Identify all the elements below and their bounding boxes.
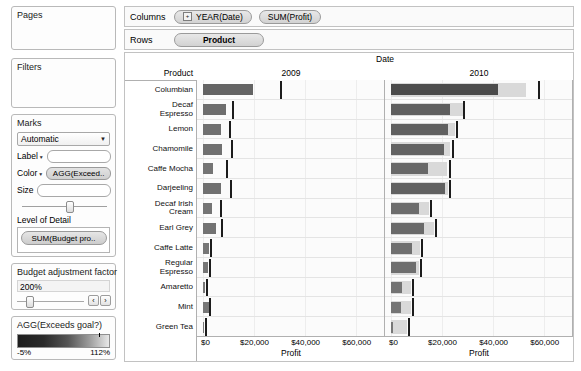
color-legend-labels: -5% 112% [17,348,110,357]
panel-header-2009[interactable]: 2009 [197,66,385,80]
color-legend-max: 112% [90,348,110,357]
profit-bar[interactable] [391,243,412,254]
grid-horizontal [197,257,384,258]
marks-color-row: Color▼ AGG(Exceed.. [17,166,111,180]
marks-label-well[interactable] [47,150,111,163]
marks-size-row: Size [17,183,111,197]
profit-bar[interactable] [203,223,216,234]
grid-horizontal [385,316,572,317]
profit-bar[interactable] [391,124,448,135]
columns-pill-year-date-label: YEAR(Date) [196,12,243,22]
expand-plus-icon[interactable]: + [183,12,192,21]
row-label[interactable]: Chamomile [125,139,197,159]
size-slider-knob[interactable] [66,201,74,213]
axis-tick-label: $0 [201,338,210,347]
grid-horizontal [385,296,572,297]
profit-bar[interactable] [203,183,221,194]
profit-bar[interactable] [203,262,208,273]
axis-2010: $0$20,000$40,000$60,000Profit [385,336,573,361]
parameter-slider-knob[interactable] [26,296,34,308]
pages-card[interactable]: Pages [11,6,116,50]
axis-tick-label: $40,000 [291,338,320,347]
marks-title: Marks [12,115,115,129]
row-label[interactable]: Green Tea [125,317,197,337]
parameter-prev-button[interactable]: ‹ [88,295,99,306]
budget-reference-line [209,298,211,316]
axis-title: Profit [385,348,573,358]
rows-shelf[interactable]: Rows Product [124,29,574,50]
grid-horizontal [385,178,572,179]
profit-bar[interactable] [203,302,209,313]
row-label[interactable]: Amaretto [125,278,197,298]
profit-bar[interactable] [391,223,424,234]
mark-type-value: Automatic [21,134,59,144]
budget-band [391,320,407,333]
mark-type-dropdown[interactable]: Automatic ▼ [17,132,110,146]
row-label[interactable]: RegularEspresso [125,258,197,278]
profit-bar[interactable] [391,262,416,273]
profit-bar[interactable] [203,104,226,115]
filters-card[interactable]: Filters [11,58,116,108]
size-slider[interactable] [22,201,107,211]
parameter-slider[interactable] [17,296,84,306]
budget-reference-line [421,239,423,257]
color-legend-marker [99,333,100,337]
grid-horizontal [197,277,384,278]
columns-pill-year-date[interactable]: + YEAR(Date) [174,10,252,24]
row-label[interactable]: Darjeeling [125,179,197,199]
level-of-detail-pill[interactable]: SUM(Budget pro.. [21,231,107,245]
budget-reference-line [220,200,222,218]
column-group-header: Date [125,53,573,67]
axis-title: Profit [197,348,385,358]
profit-bar[interactable] [391,144,444,155]
row-label[interactable]: Earl Grey [125,218,197,238]
profit-bar[interactable] [203,163,213,174]
panel-header-2010[interactable]: 2010 [385,66,573,80]
row-label[interactable]: Lemon [125,120,197,140]
marks-color-pill[interactable]: AGG(Exceed.. [46,167,111,180]
profit-bar[interactable] [391,322,393,333]
grid-horizontal [385,158,572,159]
row-label[interactable]: Decaf IrishCream [125,199,197,219]
tableau-worksheet: Pages Filters Marks Automatic ▼ Label▼ C… [0,0,581,371]
row-label[interactable]: DecafEspresso [125,100,197,120]
profit-bar[interactable] [391,203,419,214]
budget-reference-line [230,180,232,198]
profit-bar[interactable] [203,144,222,155]
profit-bar[interactable] [391,183,445,194]
pages-title: Pages [12,7,115,21]
profit-bar[interactable] [203,124,221,135]
profit-bar[interactable] [203,84,253,95]
profit-bar[interactable] [391,302,401,313]
level-of-detail-well[interactable]: SUM(Budget pro.. [17,227,110,253]
grid-horizontal [197,138,384,139]
budget-reference-line [226,160,228,178]
level-of-detail-title: Level of Detail [17,215,115,225]
row-label[interactable]: Columbian [125,80,197,100]
rows-pill-product[interactable]: Product [174,33,264,47]
grid-horizontal [385,198,572,199]
row-labels: ColumbianDecafEspressoLemonChamomileCaff… [125,80,197,361]
grid-horizontal [385,99,572,100]
marks-size-well[interactable] [37,184,111,197]
row-label[interactable]: Mint [125,297,197,317]
visualization-area: Date Product 2009 2010 ColumbianDecafEsp… [124,52,574,362]
profit-bar[interactable] [391,282,402,293]
color-legend-card: AGG(Exceeds goal?) -5% 112% [11,316,116,360]
parameter-value[interactable]: 200% [17,280,110,292]
profit-bar[interactable] [391,84,498,95]
profit-bar[interactable] [203,322,204,333]
grid-horizontal [385,217,572,218]
columns-pill-sum-profit[interactable]: SUM(Profit) [259,10,321,24]
grid-horizontal [197,316,384,317]
profit-bar[interactable] [203,243,209,254]
profit-bar[interactable] [391,163,428,174]
profit-bar[interactable] [203,203,212,214]
columns-shelf[interactable]: Columns + YEAR(Date) SUM(Profit) [124,6,574,27]
color-legend-gradient[interactable] [17,334,110,348]
row-label[interactable]: Caffe Mocha [125,159,197,179]
parameter-next-button[interactable]: › [100,295,111,306]
row-label[interactable]: Caffe Latte [125,238,197,258]
profit-bar[interactable] [203,282,205,293]
profit-bar[interactable] [391,104,450,115]
